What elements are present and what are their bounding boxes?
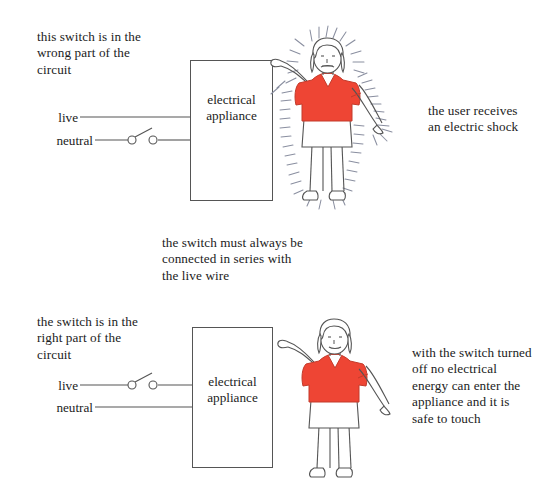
top-live-label: live [10,110,78,125]
bottom-caption-right: with the switch turned off no electrical… [412,345,548,427]
top-figure-shocked-person [255,25,400,215]
top-caption-right: the user receives an electric shock [428,103,548,136]
middle-note: the switch must always be connected in s… [162,235,342,284]
bottom-figure-safe-person [272,308,402,483]
bottom-neutral-label: neutral [10,400,93,415]
bottom-circuit-wires [0,300,300,491]
diagram-canvas: this switch is in the wrong part of the … [0,0,549,491]
bottom-live-label: live [10,378,78,393]
top-neutral-label: neutral [10,133,93,148]
